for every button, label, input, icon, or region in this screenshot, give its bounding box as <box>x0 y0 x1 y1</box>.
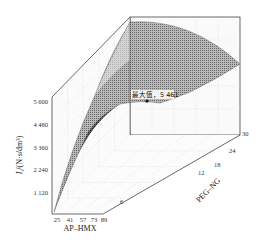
y-axis-label: PEG–NG <box>194 176 222 204</box>
x-tick: 25 <box>54 216 61 223</box>
z-tick: 3 360 <box>33 144 48 151</box>
y-tick: 12 <box>198 169 205 176</box>
x-tick: 73 <box>91 216 98 223</box>
z-tick: 5 600 <box>33 98 48 105</box>
z-tick: 4 480 <box>33 121 48 128</box>
z-tick: 2 240 <box>33 166 48 173</box>
max-label: 最大值，5 461 <box>132 90 179 99</box>
svg-text:Is/(N·s/dm³): Is/(N·s/dm³) <box>15 135 25 175</box>
y-tick: 24 <box>229 147 236 154</box>
x-tick: 57 <box>80 216 87 223</box>
z-axis-label: Is/(N·s/dm³) <box>15 135 25 175</box>
x-tick: 89 <box>101 216 108 223</box>
y-tick: 30 <box>242 130 249 137</box>
surface-chart: 5 600 4 480 3 360 2 240 1 120 Is/(N·s/dm… <box>0 0 264 246</box>
y-tick: 18 <box>214 161 221 168</box>
x-tick: 41 <box>67 216 74 223</box>
x-axis-label: AP–HMX <box>64 224 97 233</box>
max-point <box>145 99 148 102</box>
z-tick: 1 120 <box>33 189 48 196</box>
x-axis: 25 41 57 73 89 AP–HMX <box>52 214 107 233</box>
